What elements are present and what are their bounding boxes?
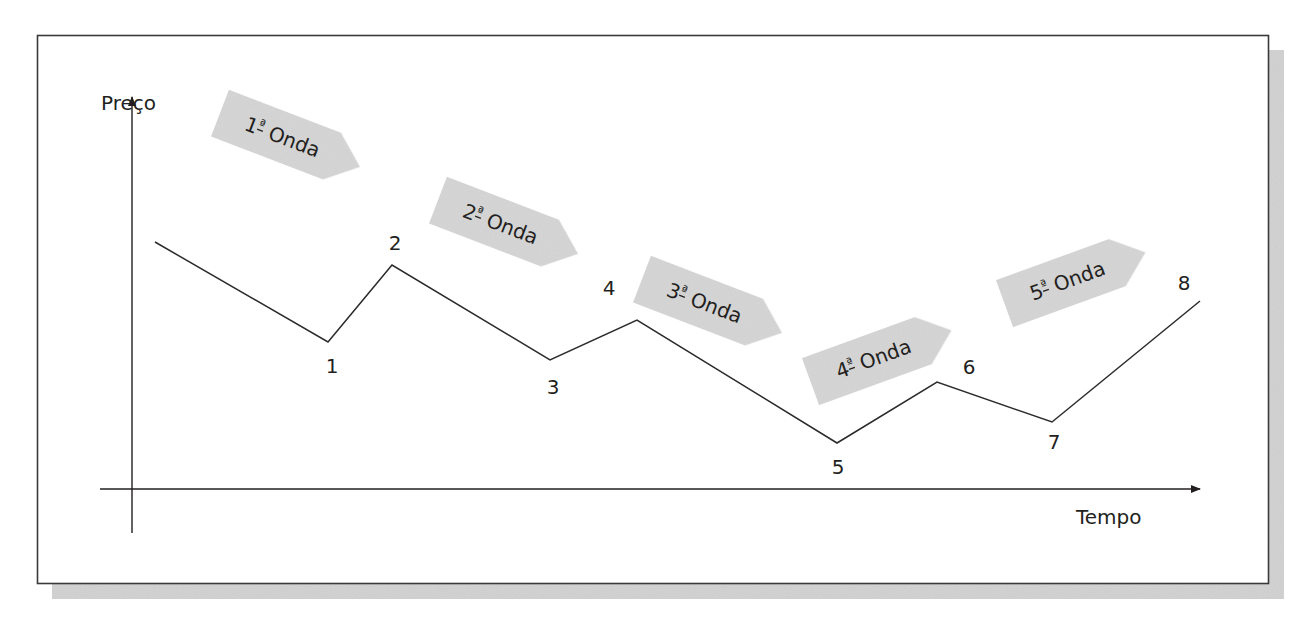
y-axis-label: Preço [101, 91, 156, 115]
diagram-canvas: Preço Tempo 1ª Onda2ª Onda3ª Onda4ª Onda… [0, 0, 1316, 628]
point-label-5: 5 [832, 455, 845, 479]
point-label-4: 4 [603, 276, 616, 300]
point-label-1: 1 [326, 354, 339, 378]
point-label-7: 7 [1048, 430, 1061, 454]
point-label-8: 8 [1178, 271, 1191, 295]
point-label-6: 6 [963, 355, 976, 379]
x-axis-label: Tempo [1075, 505, 1142, 529]
point-label-3: 3 [547, 375, 560, 399]
point-label-2: 2 [389, 231, 402, 255]
